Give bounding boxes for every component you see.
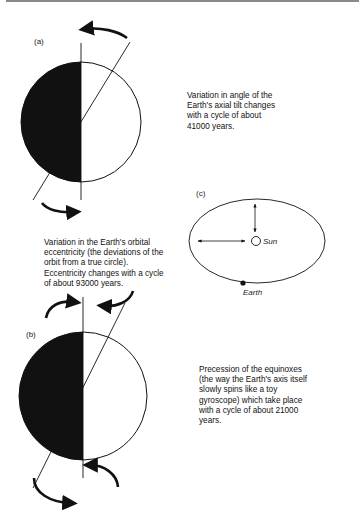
earth-dot-icon [240, 280, 245, 285]
panel-c-description: Variation in the Earth's orbital eccentr… [44, 238, 204, 289]
panel-c-orbit [189, 199, 325, 286]
sun-label: Sun [263, 237, 277, 246]
precession-arrow-bottom-left-icon [34, 478, 70, 503]
precession-arrow-top-left-icon [46, 302, 74, 318]
night-side-b [19, 332, 83, 460]
night-side-a [21, 62, 81, 182]
earth-label: Earth [243, 288, 262, 297]
panel-a-label: (a) [34, 37, 44, 46]
panel-b-earth [19, 291, 147, 503]
panel-c-label: (c) [196, 189, 205, 198]
panel-b-description: Precession of the equinoxes (the way the… [199, 365, 349, 426]
precession-arrow-bottom-right-icon [90, 465, 118, 487]
sun-icon [252, 237, 261, 246]
tilt-arrow-bottom-icon [42, 203, 74, 212]
panel-b-label: (b) [26, 330, 36, 339]
panel-a-description: Variation in angle of the Earth's axial … [187, 91, 337, 132]
tilt-arrow-top-icon [86, 28, 127, 38]
precession-arrow-top-right-icon [104, 291, 133, 306]
panel-a-earth [21, 28, 141, 212]
